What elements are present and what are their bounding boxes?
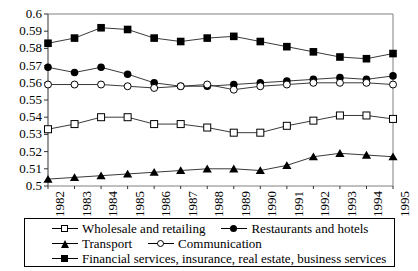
x-axis-tick-label: 1995 — [398, 191, 411, 217]
open-square-icon — [52, 223, 78, 235]
x-axis-tick-label: 1993 — [345, 191, 358, 217]
legend-label: Restaurants and hotels — [251, 222, 368, 235]
filled-square-icon — [52, 253, 78, 265]
x-axis-tick-label: 1991 — [292, 191, 305, 217]
x-axis-tick-label: 1984 — [106, 191, 119, 217]
y-axis-tick-label: 0.54 — [2, 110, 42, 123]
y-axis-tick-label: 0.53 — [2, 127, 42, 140]
x-axis-tick-label: 1986 — [159, 191, 172, 217]
filled-triangle-icon — [52, 238, 78, 250]
legend-label: Wholesale and retailing — [82, 222, 205, 235]
x-axis-tick-label: 1988 — [212, 191, 225, 217]
legend-entry-restaurants-and-hotels: Restaurants and hotels — [221, 222, 368, 235]
y-axis-tick-label: 0.58 — [2, 41, 42, 54]
series-4 — [44, 24, 397, 63]
series-2 — [43, 149, 397, 183]
x-axis-tick-label: 1989 — [239, 191, 252, 217]
y-axis-tick-label: 0.5 — [2, 179, 42, 192]
x-axis-tick-label: 1992 — [318, 191, 331, 217]
series-0 — [45, 112, 397, 136]
legend-entry-communication: Communication — [148, 237, 262, 250]
x-axis-tick-label: 1994 — [371, 191, 384, 217]
legend-entry-financial-services: Financial services, insurance, real esta… — [52, 252, 386, 265]
y-axis-tick-label: 0.52 — [2, 145, 42, 158]
y-axis-tick-label: 0.56 — [2, 76, 42, 89]
y-axis-tick-label: 0.55 — [2, 93, 42, 106]
chart-figure: 0.60.590.580.570.560.550.540.530.520.510… — [0, 0, 418, 271]
x-axis-tick-label: 1987 — [186, 191, 199, 217]
y-axis-tick-label: 0.59 — [2, 24, 42, 37]
y-axis-tick-label: 0.57 — [2, 59, 42, 72]
legend-entry-transport: Transport — [52, 237, 132, 250]
series-3 — [45, 79, 397, 93]
legend-row: Transport Communication — [52, 236, 394, 251]
filled-circle-icon — [221, 223, 247, 235]
y-axis-tick-label: 0.6 — [2, 7, 42, 20]
series-1 — [44, 64, 397, 91]
chart-series-group — [43, 24, 397, 183]
legend-row: Wholesale and retailing Restaurants and … — [52, 221, 394, 236]
legend-label: Financial services, insurance, real esta… — [82, 252, 386, 265]
y-axis-tick-label: 0.51 — [2, 162, 42, 175]
chart-axes — [44, 14, 393, 189]
open-circle-icon — [148, 238, 174, 250]
x-axis-tick-label: 1983 — [80, 191, 93, 217]
x-axis-tick-label: 1990 — [265, 191, 278, 217]
legend-row: Financial services, insurance, real esta… — [52, 251, 394, 266]
x-axis-tick-label: 1982 — [53, 191, 66, 217]
legend-entry-wholesale-and-retailing: Wholesale and retailing — [52, 222, 205, 235]
legend-label: Transport — [82, 237, 132, 250]
x-axis-tick-label: 1985 — [133, 191, 146, 217]
chart-legend: Wholesale and retailing Restaurants and … — [24, 218, 395, 267]
legend-label: Communication — [178, 237, 262, 250]
